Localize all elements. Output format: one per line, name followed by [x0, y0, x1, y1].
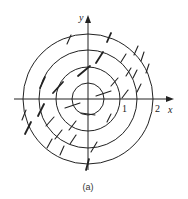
tick-label-1: 1	[122, 103, 127, 114]
x-axis-label: x	[167, 104, 173, 115]
y-axis-label: y	[78, 12, 84, 23]
y-axis-arrow-icon	[85, 15, 91, 23]
x-axis-arrow-icon	[166, 96, 174, 102]
direction-field-diagram: y x 1 2 (a)	[0, 0, 188, 199]
figure-caption: (a)	[83, 182, 94, 192]
tick-label-2: 2	[155, 103, 160, 114]
